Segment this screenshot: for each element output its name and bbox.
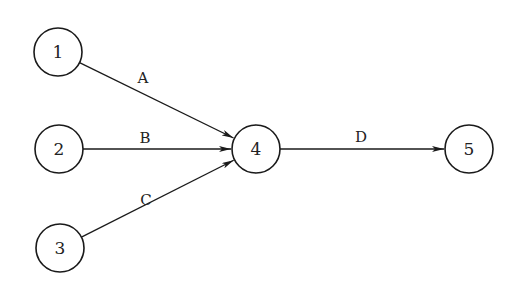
- edge-a: A: [80, 63, 234, 138]
- node-label: 1: [53, 42, 64, 62]
- node-label: 5: [464, 139, 475, 159]
- node-label: 4: [251, 139, 262, 159]
- edge-b: B: [83, 129, 231, 149]
- node-label: 2: [54, 139, 65, 159]
- edge-label: D: [355, 128, 367, 146]
- edge-label: B: [139, 129, 150, 147]
- node-3: 3: [36, 224, 84, 272]
- arrow-icon: [80, 63, 234, 138]
- arrow-icon: [81, 160, 233, 237]
- node-2: 2: [35, 125, 83, 173]
- node-label: 3: [55, 238, 66, 258]
- node-4: 4: [232, 125, 280, 173]
- edge-d: D: [280, 128, 444, 149]
- edge-label: C: [140, 191, 151, 209]
- node-1: 1: [34, 28, 82, 76]
- edge-label: A: [137, 69, 149, 87]
- node-5: 5: [445, 125, 493, 173]
- network-diagram: ABCD 12345: [0, 0, 521, 285]
- edge-c: C: [81, 160, 233, 237]
